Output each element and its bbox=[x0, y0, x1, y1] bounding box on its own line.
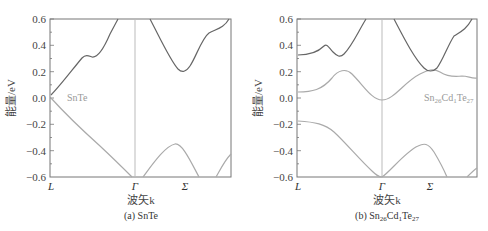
panel-caption: (b) Sn26Cd1Te27 bbox=[355, 210, 419, 223]
y-axis-title: 能量/eV bbox=[251, 79, 264, 117]
valence-band-curve bbox=[51, 98, 132, 177]
valence-band-curve bbox=[143, 144, 199, 177]
ytick-label: 0.2 bbox=[279, 66, 293, 78]
kpoint-label-gamma: Γ bbox=[131, 180, 139, 192]
panel-a: 0.6 0.4 0.2 0.0 −0.2 −0.4 −0.6 能量/eV L Γ… bbox=[4, 13, 231, 222]
ytick-label: −0.6 bbox=[26, 171, 46, 183]
ytick-label: −0.4 bbox=[273, 145, 293, 157]
valence-band-curve bbox=[467, 168, 477, 177]
x-axis-title: 波矢k bbox=[127, 193, 155, 206]
valence-band-curve bbox=[382, 144, 447, 177]
ytick-label: 0.0 bbox=[32, 92, 46, 104]
kpoint-label-gamma: Γ bbox=[378, 180, 386, 192]
ytick-label: 0.4 bbox=[32, 39, 46, 51]
ytick-label: 0.6 bbox=[32, 13, 46, 25]
ytick-label: 0.2 bbox=[32, 66, 46, 78]
ytick-label: 0.4 bbox=[279, 39, 293, 51]
kpoint-label-sigma: Σ bbox=[426, 180, 434, 192]
conduction-band-curve bbox=[150, 19, 229, 71]
ytick-label: −0.4 bbox=[26, 145, 46, 157]
kpoint-label-L: L bbox=[47, 180, 54, 192]
panel-caption: (a) SnTe bbox=[124, 210, 159, 222]
kpoint-label-L: L bbox=[294, 180, 301, 192]
panel-b: 0.6 0.4 0.2 0.0 −0.2 −0.4 −0.6 能量/eV L Γ… bbox=[251, 13, 477, 223]
figure-svg: 0.6 0.4 0.2 0.0 −0.2 −0.4 −0.6 能量/eV L Γ… bbox=[0, 0, 488, 231]
conduction-band-curve bbox=[51, 19, 118, 95]
y-axis-title: 能量/eV bbox=[4, 79, 17, 117]
material-label: SnTe bbox=[67, 92, 88, 103]
conduction-band-curve bbox=[394, 19, 472, 71]
ytick-label: 0.0 bbox=[279, 92, 293, 104]
y-ticks bbox=[50, 19, 54, 164]
kpoint-label-sigma: Σ bbox=[181, 180, 189, 192]
valence-band-curve bbox=[298, 121, 382, 177]
material-label: Sn26Cd1Te27 bbox=[424, 92, 474, 105]
ytick-label: −0.6 bbox=[273, 171, 293, 183]
ytick-label: −0.2 bbox=[26, 118, 46, 130]
conduction-band-curve bbox=[298, 19, 366, 56]
valence-band-curve bbox=[216, 154, 231, 177]
x-axis-title: 波矢k bbox=[373, 193, 401, 206]
ytick-label: −0.2 bbox=[273, 118, 293, 130]
ytick-label: 0.6 bbox=[279, 13, 293, 25]
